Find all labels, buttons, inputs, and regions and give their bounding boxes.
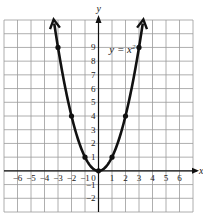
svg-text:6: 6 [177,173,182,183]
svg-text:2: 2 [91,138,96,148]
svg-text:4: 4 [91,111,96,121]
svg-text:6: 6 [91,84,96,94]
svg-text:−6: −6 [13,173,23,183]
svg-text:1: 1 [91,152,96,162]
svg-text:5: 5 [91,97,96,107]
svg-text:−2: −2 [67,173,77,183]
x-axis-label: x [198,165,203,176]
svg-text:−3: −3 [53,173,63,183]
svg-text:8: 8 [91,56,96,66]
y-axis-label: y [96,3,102,14]
svg-text:5: 5 [164,173,169,183]
parabola-chart: −6−5−4−3−2−10123456−2−1123456789 y = x2 … [0,0,203,218]
svg-text:2: 2 [123,173,128,183]
svg-text:4: 4 [150,173,155,183]
svg-text:−5: −5 [26,173,36,183]
svg-text:1: 1 [110,173,115,183]
svg-text:3: 3 [91,125,96,135]
tick-labels: −6−5−4−3−2−10123456−2−1123456789 [13,42,183,203]
svg-text:9: 9 [91,42,96,52]
svg-text:3: 3 [137,173,142,183]
equation-label: y = x2 [108,43,136,55]
svg-text:−1: −1 [86,180,96,190]
svg-text:−2: −2 [86,193,96,203]
svg-text:7: 7 [91,70,96,80]
svg-text:−4: −4 [40,173,50,183]
